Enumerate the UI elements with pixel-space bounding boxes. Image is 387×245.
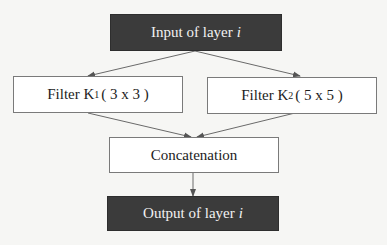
filter-k1-prefix: Filter K [47, 86, 94, 103]
arrow-input-to-filter1 [88, 51, 195, 76]
filter-k2-node: Filter K2 ( 5 x 5 ) [207, 77, 377, 114]
output-layer-label: Output of layer [143, 205, 235, 222]
input-layer-label: Input of layer [151, 24, 233, 41]
output-layer-variable: i [239, 205, 243, 222]
arrow-input-to-filter2 [195, 51, 300, 76]
input-layer-node: Input of layer i [110, 14, 282, 51]
filter-k2-subscript: 2 [288, 90, 293, 101]
arrow-filter1-to-concat [88, 113, 191, 137]
filter-k2-size: ( 5 x 5 ) [295, 87, 343, 104]
filter-k1-subscript: 1 [94, 89, 99, 100]
filter-k1-node: Filter K1 ( 3 x 3 ) [13, 76, 183, 113]
concatenation-node: Concatenation [109, 137, 279, 173]
arrow-filter2-to-concat [197, 113, 295, 137]
concatenation-label: Concatenation [151, 147, 238, 164]
filter-k2-prefix: Filter K [241, 87, 288, 104]
output-layer-node: Output of layer i [107, 196, 279, 231]
input-layer-variable: i [237, 24, 241, 41]
filter-k1-size: ( 3 x 3 ) [101, 86, 149, 103]
